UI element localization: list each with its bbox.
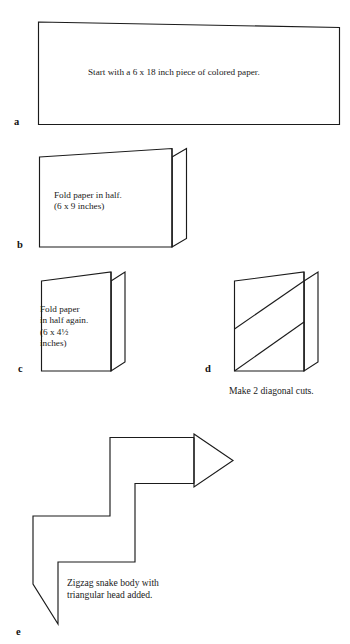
step-caption-e: Zigzag snake body with triangular head a… [67, 577, 217, 600]
snake-triangular-head [194, 434, 233, 487]
step-caption-d: Make 2 diagonal cuts. [229, 385, 349, 397]
step-label-c: c [18, 364, 23, 375]
step-text-c: Fold paper in half again. (6 x 4½ inches… [40, 304, 110, 350]
step-label-d: d [205, 364, 211, 375]
step-label-a: a [14, 117, 19, 128]
figure-d-folded-paper-with-cuts [235, 272, 319, 371]
step-text-a: Start with a 6 x 18 inch piece of colore… [88, 67, 318, 78]
step-label-e: e [16, 627, 21, 638]
step-text-b: Fold paper in half. (6 x 9 inches) [54, 190, 184, 213]
step-label-b: b [17, 240, 23, 251]
instruction-diagram: a b c d e Start with a 6 x 18 inch piece… [0, 0, 350, 644]
